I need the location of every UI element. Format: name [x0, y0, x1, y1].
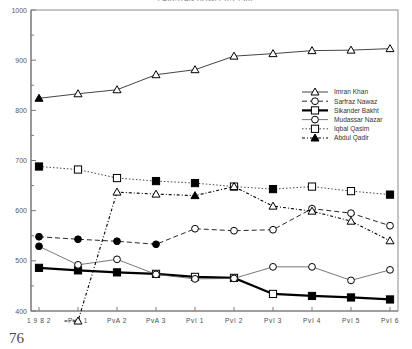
data-point — [269, 202, 277, 209]
data-point — [386, 237, 394, 244]
series-layer — [35, 45, 394, 324]
y-tick-label: 600 — [15, 207, 27, 214]
data-point — [270, 226, 277, 233]
data-point — [75, 261, 82, 268]
y-tick-label: 500 — [15, 257, 27, 264]
y-tick-label: 900 — [15, 57, 27, 64]
legend-swatch-marker — [311, 125, 318, 132]
data-point — [114, 238, 121, 245]
data-point — [231, 275, 238, 282]
series-sarfraz-nawaz — [36, 205, 394, 247]
data-point — [308, 183, 315, 190]
chart-page: PAKISTAN BOWLERS 1982 400500600700800900… — [0, 0, 412, 349]
y-tick-label: 800 — [15, 107, 27, 114]
x-tick-label: PvI 1 — [186, 317, 204, 324]
data-point — [36, 243, 43, 250]
data-point — [386, 296, 393, 303]
x-tick-label: PvI 3 — [264, 317, 282, 324]
x-tick-label: PvI 4 — [303, 317, 321, 324]
data-point — [269, 290, 276, 297]
data-point — [192, 275, 199, 282]
legend-item-label: Iqbal Qasim — [334, 125, 370, 133]
legend-item-label: Abdul Qadir — [334, 134, 370, 142]
data-point — [386, 45, 394, 52]
legend-swatch-marker — [311, 107, 318, 114]
data-point — [113, 174, 120, 181]
legend-item-label: Mudassar Nazar — [334, 116, 383, 123]
y-tick-label: 700 — [15, 157, 27, 164]
data-point — [113, 269, 120, 276]
data-point — [113, 86, 121, 93]
series-iqbal-qasim — [35, 163, 393, 198]
x-tick-label: PvI 6 — [381, 317, 399, 324]
x-axis: 1 9 8 2PvA 1PvA 2PvA 3PvI 1PvI 2PvI 3PvI… — [27, 307, 399, 324]
data-point — [387, 266, 394, 273]
legend-item-label: Sikander Bakht — [334, 107, 379, 114]
data-point — [152, 177, 159, 184]
x-tick-label: PvA 2 — [107, 317, 127, 324]
page-number: 76 — [9, 330, 24, 347]
bowlers-line-chart: 4005006007008009001000 1 9 8 2PvA 1PvA 2… — [0, 0, 412, 349]
y-tick-label: 1000 — [11, 7, 27, 14]
data-point — [35, 163, 42, 170]
data-point — [192, 225, 199, 232]
x-tick-label: PvA 3 — [146, 317, 166, 324]
data-point — [74, 166, 81, 173]
data-point — [309, 263, 316, 270]
data-point — [348, 210, 355, 217]
y-tick-label: 400 — [15, 308, 27, 315]
chart-legend: Imran KhanSarfraz NawazSikander BakhtMud… — [302, 88, 383, 142]
data-point — [36, 233, 43, 240]
legend-swatch-marker — [312, 98, 319, 105]
legend-item-label: Sarfraz Nawaz — [334, 98, 377, 105]
data-point — [270, 263, 277, 270]
series-abdul-qadir — [65, 183, 395, 324]
data-point — [386, 191, 393, 198]
data-point — [308, 292, 315, 299]
data-point — [114, 256, 121, 263]
series-sikander-bakht — [35, 264, 393, 303]
data-point — [153, 271, 160, 278]
x-tick-label: PvI 5 — [342, 317, 360, 324]
data-point — [75, 236, 82, 243]
data-point — [348, 277, 355, 284]
data-point — [191, 179, 198, 186]
data-point — [231, 227, 238, 234]
legend-swatch-marker — [312, 116, 319, 123]
data-point — [347, 188, 354, 195]
data-point — [347, 294, 354, 301]
data-point — [153, 241, 160, 248]
legend-item-label: Imran Khan — [334, 88, 368, 95]
data-point — [113, 188, 121, 195]
data-point — [35, 264, 42, 271]
x-tick-label: PvI 2 — [225, 317, 243, 324]
data-point — [269, 185, 276, 192]
x-tick-label: 1 9 8 2 — [27, 317, 51, 324]
data-point — [387, 222, 394, 229]
y-axis: 4005006007008009001000 — [11, 7, 36, 315]
plot-frame — [31, 10, 398, 311]
